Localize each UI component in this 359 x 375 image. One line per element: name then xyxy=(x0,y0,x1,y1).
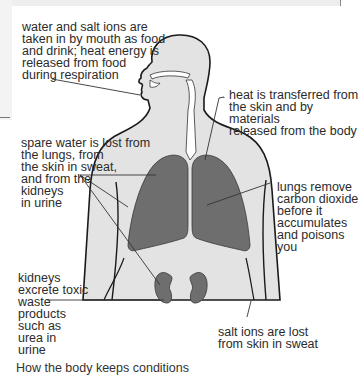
caption-partial: How the body keeps conditions xyxy=(16,361,189,375)
label-salt-loss: salt ions are lost from skin in sweat xyxy=(218,326,318,350)
label-mouth: water and salt ions are taken in by mout… xyxy=(22,21,165,81)
label-skin-heat: heat is transferred from the skin and by… xyxy=(229,89,359,137)
label-water-loss: spare water is lost from the lungs, from… xyxy=(21,137,150,209)
label-kidneys: kidneys excrete toxic waste products suc… xyxy=(18,272,88,356)
label-lungs: lungs remove carbon dioxide before it ac… xyxy=(277,181,358,253)
